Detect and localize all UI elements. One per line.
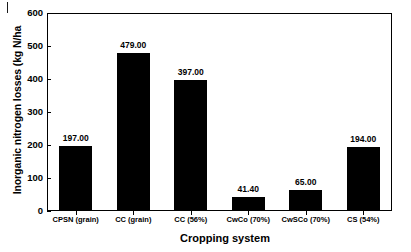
- bar: [59, 146, 92, 211]
- bar-value-label: 197.00: [46, 133, 106, 143]
- y-axis-ticks: 6005004003002001000: [0, 0, 43, 252]
- bar-value-label: 397.00: [161, 67, 221, 77]
- y-tick-mark: [47, 211, 51, 212]
- y-tick-mark: [47, 112, 51, 113]
- bar-value-label: 479.00: [103, 40, 163, 50]
- y-tick-label: 300: [27, 107, 43, 117]
- y-tick-mark: [47, 145, 51, 146]
- x-tick-label: CS (54%): [328, 215, 398, 224]
- x-tick-mark: [76, 211, 77, 215]
- y-tick-label: 200: [27, 140, 43, 150]
- x-tick-mark: [248, 211, 249, 215]
- y-tick-mark: [47, 178, 51, 179]
- x-tick-mark: [133, 211, 134, 215]
- x-tick-mark: [306, 211, 307, 215]
- x-axis-title: Cropping system: [45, 232, 405, 244]
- x-tick-mark: [191, 211, 192, 215]
- bar-chart: Inorganic nitrogen losses (kg N/ha 60050…: [0, 0, 411, 252]
- bar: [347, 147, 380, 211]
- bar-value-label: 65.00: [276, 177, 336, 187]
- y-tick-mark: [47, 79, 51, 80]
- y-tick-label: 400: [27, 74, 43, 84]
- bar: [174, 80, 207, 211]
- y-tick-label: 100: [27, 173, 43, 183]
- bar-value-label: 41.40: [218, 184, 278, 194]
- y-tick-mark: [47, 13, 51, 14]
- bar: [232, 197, 265, 211]
- y-tick-mark: [47, 46, 51, 47]
- plot-area: 197.00479.00397.0041.4065.00194.00: [47, 13, 392, 211]
- y-tick-label: 600: [27, 8, 43, 18]
- y-tick-label: 500: [27, 41, 43, 51]
- bar: [117, 53, 150, 211]
- bar: [289, 190, 322, 211]
- bar-value-label: 194.00: [333, 134, 393, 144]
- x-tick-mark: [363, 211, 364, 215]
